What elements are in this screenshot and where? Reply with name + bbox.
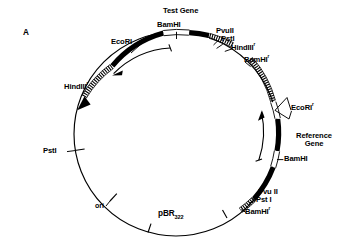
test-gene-label: Test Gene <box>163 7 198 15</box>
leader-psti-left <box>67 151 75 152</box>
reference-gene-label-line2: Gene <box>283 140 345 148</box>
panel-label-a: A <box>23 29 29 37</box>
test-gene-direction-arc <box>114 48 171 74</box>
plasmid-name-label: pBR322 <box>158 210 184 220</box>
ecori-topleft-label: EcoRI <box>111 38 132 46</box>
ecori-right-label: EcoRIr <box>291 103 314 111</box>
reference-gene-label: Reference Gene <box>283 132 345 147</box>
tick-psti-left <box>75 149 85 151</box>
tick-ori <box>110 194 117 201</box>
tick-bottom-right <box>223 210 228 218</box>
leader-ecori-right-triangle-upper <box>275 98 291 111</box>
leader-psti-top <box>217 44 223 48</box>
tick-bottom <box>148 224 151 233</box>
bamhi-upperright-text: BamHI <box>244 55 268 64</box>
psti-bottom-label: Pst I <box>256 196 272 204</box>
bamhi-upperright-label: BamHIr <box>244 55 269 63</box>
ecori-right-text: EcoRI <box>291 103 312 112</box>
bamhi-top-label: BamHI <box>157 21 181 29</box>
bamhi-bottom-label: BamHIr <box>245 207 270 215</box>
test-gene-segment-right <box>189 33 209 36</box>
ecori-right-superscript: r <box>312 102 314 107</box>
plasmid-map-figure: A Test Gene BamHI EcoRI PvuII PstI HindI… <box>0 0 354 248</box>
hindiii-left-superscript: r <box>87 81 89 86</box>
bamhi-upperright-superscript: r <box>268 54 270 59</box>
plasmid-name-text: pBR <box>158 209 175 218</box>
hindiii-left-label: HindIIIr <box>64 82 88 90</box>
hindiii-left-text: HindIII <box>64 82 87 91</box>
psti-left-label: PstI <box>43 147 57 155</box>
hindiii-topright-label: HindIIIr <box>231 43 255 51</box>
reference-gene-direction-arrowhead <box>258 110 265 121</box>
ori-label: ori <box>95 203 104 210</box>
bamhi-bottom-superscript: r <box>269 206 271 211</box>
reference-gene-segment-upper <box>277 119 279 151</box>
hindiii-topright-text: HindIII <box>231 43 254 52</box>
hindiii-topright-superscript: r <box>254 42 256 47</box>
bamhi-right-label: BamHI <box>284 155 308 163</box>
plasmid-name-subscript: 322 <box>175 214 184 220</box>
bamhi-bottom-text: BamHI <box>245 207 269 216</box>
leader-ori <box>106 201 110 206</box>
